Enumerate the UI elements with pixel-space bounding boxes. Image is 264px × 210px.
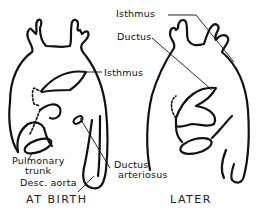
caption-at-birth: AT BIRTH [26, 193, 88, 206]
label-ductus-arteriosus-line2: arteriosus [118, 170, 168, 180]
label-desc-aorta: Desc. aorta [20, 178, 77, 188]
later-heart-vessels [147, 20, 249, 183]
aortic-arch-diagram: Isthmus Ductus Isthmus Pulmonary trunk D… [0, 0, 264, 210]
caption-later: LATER [170, 193, 212, 206]
label-isthmus-birth: Isthmus [104, 68, 143, 78]
label-isthmus-later: Isthmus [116, 9, 155, 19]
label-pulmonary-trunk-line2: trunk [25, 166, 51, 176]
label-ductus-later: Ductus [117, 32, 151, 42]
